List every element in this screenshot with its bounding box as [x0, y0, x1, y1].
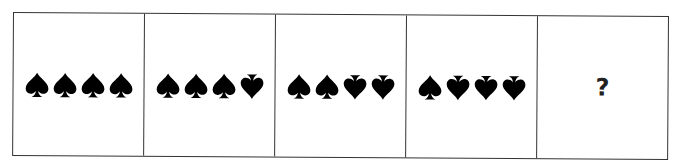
cell-4 — [406, 15, 538, 158]
inverted-spade-icon — [341, 69, 368, 105]
inverted-spade-icon — [444, 70, 471, 106]
inverted-spade-icon — [369, 69, 396, 105]
spade-icon — [51, 67, 78, 103]
spade-icon — [154, 68, 181, 104]
symbol-row — [285, 69, 396, 106]
spade-icon — [210, 68, 237, 104]
symbol-row — [154, 68, 265, 105]
spade-icon — [285, 69, 312, 105]
spade-icon — [313, 69, 340, 105]
question-mark: ? — [595, 74, 609, 102]
cell-answer: ? — [537, 16, 668, 159]
inverted-spade-icon — [238, 68, 265, 104]
sequence-puzzle: ? — [12, 12, 669, 160]
symbol-row — [23, 67, 134, 104]
cell-1 — [13, 13, 145, 156]
inverted-spade-icon — [500, 70, 527, 106]
symbol-row — [416, 69, 527, 106]
cell-3 — [275, 15, 407, 158]
spade-icon — [23, 67, 50, 103]
spade-icon — [182, 68, 209, 104]
spade-icon — [79, 67, 106, 103]
spade-icon — [416, 69, 443, 105]
cell-2 — [144, 14, 276, 157]
inverted-spade-icon — [472, 70, 499, 106]
spade-icon — [107, 68, 134, 104]
